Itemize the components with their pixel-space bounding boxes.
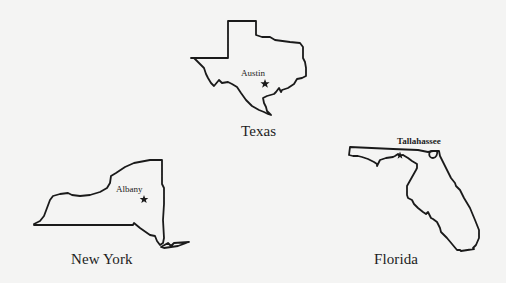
florida-label: Florida — [374, 251, 418, 268]
florida-outline — [349, 147, 479, 251]
florida-northeast-notch — [429, 151, 437, 158]
austin-star-icon — [260, 79, 269, 88]
albany-star-icon — [140, 195, 149, 203]
new-york-map — [34, 160, 189, 248]
tallahassee-star-icon — [396, 152, 404, 159]
florida-map — [349, 147, 479, 251]
long-island-outline — [161, 242, 189, 248]
state-capitals-figure: Austin Albany Tallahassee Texas New York… — [0, 0, 506, 283]
austin-label: Austin — [241, 68, 265, 78]
albany-label: Albany — [116, 184, 143, 194]
new-york-outline — [34, 160, 164, 245]
tallahassee-label: Tallahassee — [397, 136, 441, 146]
new-york-label: New York — [71, 251, 133, 268]
texas-label: Texas — [241, 123, 276, 140]
